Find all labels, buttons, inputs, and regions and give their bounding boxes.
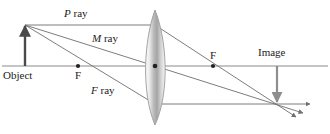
image-label: Image [258, 47, 285, 58]
lens-center-dot [153, 64, 158, 69]
focal-point-left-label: F [75, 70, 81, 81]
p-ray-label: P ray [64, 8, 88, 19]
ray-diagram-figure: P ray M ray F ray Object F F Image [0, 0, 330, 134]
focal-point-left-dot [76, 64, 80, 68]
m-ray-label-text: ray [101, 32, 118, 44]
m-ray-incident [25, 25, 155, 66]
object-label: Object [3, 70, 32, 81]
m-ray-label: M ray [92, 33, 118, 44]
p-ray-label-symbol: P [64, 7, 71, 19]
f-ray-label-symbol: F [91, 84, 98, 96]
p-ray-refracted [155, 25, 296, 117]
f-ray-incident [25, 25, 155, 104]
focal-point-right-label: F [210, 50, 216, 61]
ray-diagram-canvas [0, 0, 330, 134]
focal-point-right-dot [211, 64, 215, 68]
f-ray-label-text: ray [98, 84, 115, 96]
f-ray-label: F ray [91, 85, 115, 96]
m-ray-label-symbol: M [92, 32, 101, 44]
p-ray-label-text: ray [71, 7, 88, 19]
